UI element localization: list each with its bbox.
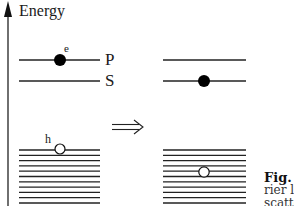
p-level-label: P: [105, 51, 114, 68]
energy-axis-label: Energy: [19, 3, 65, 19]
valence-band-left: [19, 150, 100, 203]
hole-label: h: [45, 133, 51, 145]
hole-circle-icon: [199, 167, 209, 177]
electron-dot-icon: [54, 54, 66, 66]
transition-arrow-icon: [112, 120, 143, 134]
s-level-label: S: [105, 72, 114, 89]
arrow-up-icon: [4, 1, 12, 17]
after-state: [163, 60, 246, 203]
hole-circle-icon: [55, 144, 65, 154]
figure-caption: Fig. rier l scatte: [264, 171, 294, 206]
caption-line-3: scatte: [264, 197, 294, 206]
energy-axis: [4, 1, 12, 206]
energy-level-diagram: Energy e P S h Fig. rier l scatte: [0, 0, 294, 206]
before-state: [19, 54, 100, 203]
electron-label: e: [64, 43, 69, 54]
electron-dot-icon: [198, 75, 210, 87]
diagram-canvas: [0, 0, 294, 206]
